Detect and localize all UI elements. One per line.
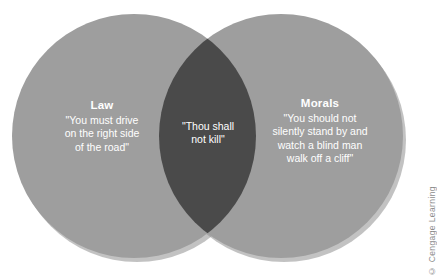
law-body: "You must drive on the right side of the… [34,114,170,154]
morals-title: Morals [244,96,396,111]
intersection-body: "Thou shall not kill" [166,120,250,147]
intersection-label: "Thou shall not kill" [166,120,250,147]
law-title: Law [34,98,170,113]
attribution-text: © Cengage Learning [427,186,437,276]
venn-diagram-figure: Law "You must drive on the right side of… [0,0,438,280]
law-label: Law "You must drive on the right side of… [34,98,170,154]
morals-label: Morals "You should not silently stand by… [244,96,396,165]
morals-body: "You should not silently stand by and wa… [244,112,396,166]
